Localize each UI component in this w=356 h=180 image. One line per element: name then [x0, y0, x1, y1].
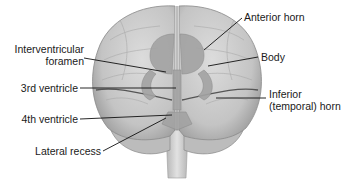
label-fourth-ventricle: 4th ventricle	[6, 113, 78, 125]
label-lateral-recess: Lateral recess	[20, 145, 101, 157]
label-interventricular-foramen-line2: foramen	[14, 55, 84, 67]
third-ventricle-shape	[173, 70, 181, 110]
label-anterior-horn: Anterior horn	[244, 11, 305, 23]
label-body: Body	[261, 51, 285, 63]
brain-ventricle-diagram: Anterior horn Interventricular foramen B…	[0, 0, 356, 180]
label-inferior-horn: Inferior (temporal) horn	[269, 88, 341, 112]
label-interventricular-foramen: Interventricular foramen	[14, 43, 84, 67]
label-third-ventricle: 3rd ventricle	[6, 82, 78, 94]
label-inferior-horn-line2: (temporal) horn	[269, 100, 341, 112]
label-inferior-horn-line1: Inferior	[269, 88, 341, 100]
label-interventricular-foramen-line1: Interventricular	[14, 43, 84, 55]
